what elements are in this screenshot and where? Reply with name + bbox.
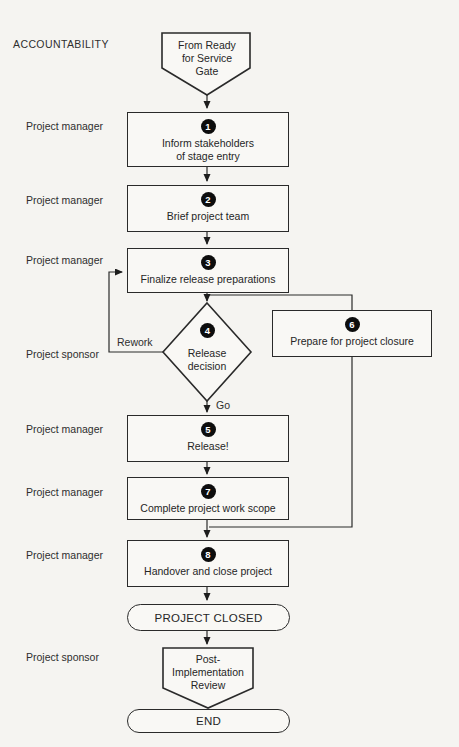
owner-label-step1: Project manager: [26, 120, 103, 132]
step-6-label: Prepare for project closure: [290, 335, 414, 348]
step-8-label: Handover and close project: [144, 565, 272, 578]
owner-label-step2: Project manager: [26, 194, 103, 206]
step-3-label: Finalize release preparations: [141, 273, 276, 286]
step-7-number-badge: 7: [201, 484, 216, 499]
step-3-box: 3 Finalize release preparations: [127, 248, 289, 293]
step-3-number-badge: 3: [201, 255, 216, 270]
step-8-number-badge: 8: [201, 547, 216, 562]
owner-label-step7: Project manager: [26, 486, 103, 498]
step-6-box: 6 Prepare for project closure: [272, 310, 432, 357]
step-5-box: 5 Release!: [127, 415, 289, 462]
start-gate-line-1: From Ready: [163, 39, 251, 52]
step-6-number-badge: 6: [345, 317, 360, 332]
owner-label-step3: Project manager: [26, 254, 103, 266]
step-2-label: Brief project team: [167, 210, 249, 223]
step-1-box: 1 Inform stakeholders of stage entry: [127, 112, 289, 167]
decision-label-line-1: Release: [167, 347, 247, 360]
decision-label-line-2: decision: [167, 360, 247, 373]
step-4-number-badge: 4: [200, 323, 215, 338]
step-1-label-line-1: Inform stakeholders: [162, 137, 254, 150]
step-7-box: 7 Complete project work scope: [127, 477, 289, 520]
post-review-label: Post- Implementation Review: [163, 653, 253, 692]
owner-label-step4: Project sponsor: [26, 348, 99, 360]
step-7-label: Complete project work scope: [140, 502, 275, 515]
owner-label-step5: Project manager: [26, 423, 103, 435]
start-gate-line-2: for Service: [163, 52, 251, 65]
rework-edge-label: Rework: [117, 336, 153, 348]
step-8-box: 8 Handover and close project: [127, 540, 289, 587]
go-edge-label: Go: [216, 399, 230, 411]
step-1-label-line-2: of stage entry: [162, 150, 254, 163]
start-gate-line-3: Gate: [163, 65, 251, 78]
step-1-number-badge: 1: [201, 119, 216, 134]
decision-label: Release decision: [167, 347, 247, 373]
flowchart-canvas: ACCOUNTABILITY Project manager Project m…: [0, 0, 459, 747]
post-review-line-1: Post-: [163, 653, 253, 666]
start-gate-label: From Ready for Service Gate: [163, 39, 251, 78]
step-2-box: 2 Brief project team: [127, 185, 289, 232]
end-terminator: END: [127, 709, 290, 733]
owner-label-step8: Project manager: [26, 549, 103, 561]
owner-label-post-review: Project sponsor: [26, 651, 99, 663]
step-5-number-badge: 5: [201, 422, 216, 437]
post-review-line-2: Implementation: [163, 666, 253, 679]
step-5-label: Release!: [187, 440, 228, 453]
step-2-number-badge: 2: [201, 192, 216, 207]
accountability-heading: ACCOUNTABILITY: [13, 38, 109, 50]
project-closed-terminator: PROJECT CLOSED: [127, 604, 290, 631]
post-review-line-3: Review: [163, 679, 253, 692]
